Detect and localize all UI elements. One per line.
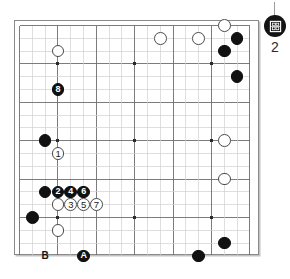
- stone-black-A[interactable]: A: [77, 250, 90, 263]
- stone-black[interactable]: [218, 237, 231, 250]
- stone-black[interactable]: [192, 250, 205, 263]
- stone-label: A: [80, 251, 86, 260]
- stone-white-3[interactable]: 3: [64, 198, 77, 211]
- stone-white-1[interactable]: 1: [52, 147, 65, 160]
- stone-label: 7: [94, 200, 99, 210]
- stone-white[interactable]: [52, 45, 65, 58]
- go-board[interactable]: 81246357AB: [14, 20, 259, 255]
- stone-black[interactable]: [26, 211, 39, 224]
- stone-black[interactable]: [39, 134, 52, 147]
- stone-black-4[interactable]: 4: [64, 186, 77, 199]
- stone-white[interactable]: [218, 173, 231, 186]
- stone-white[interactable]: [52, 224, 65, 237]
- stone-white[interactable]: [52, 198, 65, 211]
- stone-label: 8: [56, 85, 61, 94]
- stone-black[interactable]: [231, 70, 244, 83]
- stone-label: 1: [55, 149, 60, 159]
- stone-white[interactable]: [218, 134, 231, 147]
- stone-label: 2: [56, 187, 61, 196]
- move-count-label: 2: [262, 39, 288, 55]
- stone-white[interactable]: [192, 32, 205, 45]
- stone-black[interactable]: [231, 32, 244, 45]
- stone-black[interactable]: [218, 45, 231, 58]
- black-stone-diagram-icon[interactable]: [264, 15, 286, 37]
- board-marker-B: B: [42, 250, 49, 261]
- stone-black-2[interactable]: 2: [52, 186, 65, 199]
- stones-layer[interactable]: 81246357AB: [14, 20, 259, 255]
- stone-label: 4: [68, 187, 73, 196]
- stone-black-6[interactable]: 6: [77, 186, 90, 199]
- stone-white-7[interactable]: 7: [90, 198, 103, 211]
- stone-black[interactable]: [39, 186, 52, 199]
- stone-label: 5: [81, 200, 86, 210]
- stone-label: 3: [68, 200, 73, 210]
- stone-white[interactable]: [154, 32, 167, 45]
- stone-black-8[interactable]: 8: [52, 83, 65, 96]
- diagram-glyph: [269, 20, 282, 33]
- stone-label: 6: [81, 187, 86, 196]
- stone-white[interactable]: [218, 19, 231, 32]
- stone-white-5[interactable]: 5: [77, 198, 90, 211]
